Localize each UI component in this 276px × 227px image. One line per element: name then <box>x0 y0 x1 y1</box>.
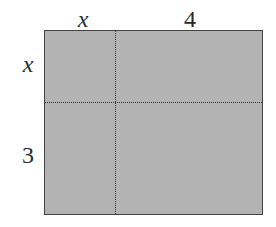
left-label-x: x <box>23 52 34 76</box>
vertical-dashed-divider <box>115 31 116 214</box>
horizontal-dashed-divider <box>45 102 262 103</box>
area-rectangle <box>44 30 263 215</box>
top-label-4: 4 <box>184 7 196 31</box>
left-label-3: 3 <box>22 143 34 167</box>
top-label-x: x <box>78 7 89 31</box>
